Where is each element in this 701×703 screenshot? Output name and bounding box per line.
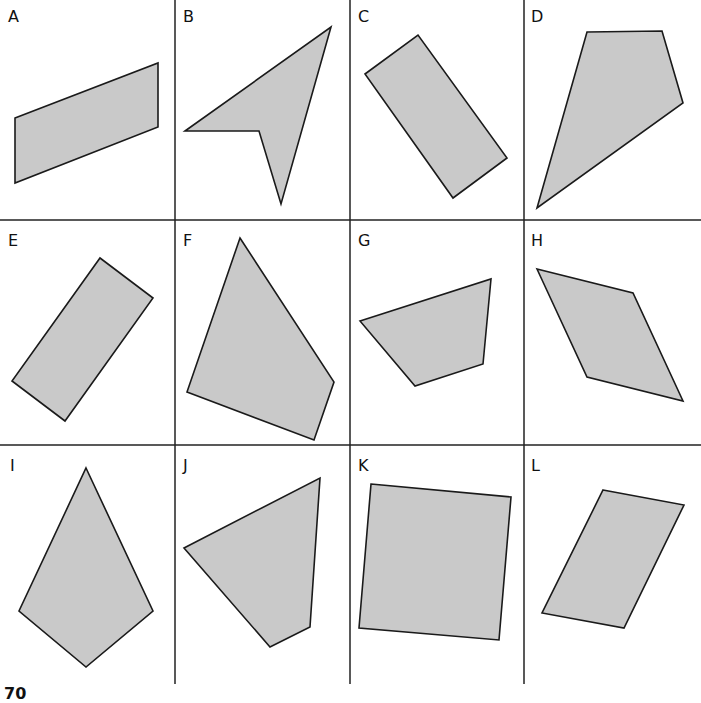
cell-label-f: F	[183, 231, 192, 250]
cell-label-k: K	[358, 456, 369, 475]
shape-i	[19, 468, 153, 667]
cell-b: B	[183, 7, 331, 204]
cell-f: F	[183, 231, 334, 440]
shape-a	[15, 63, 158, 183]
shape-e	[12, 258, 153, 421]
cell-label-j: J	[182, 456, 188, 475]
shape-cells: ABCDEFGHIJKL	[8, 7, 684, 667]
cell-l: L	[531, 456, 684, 628]
shape-d	[537, 31, 683, 208]
shape-h	[537, 269, 683, 401]
cell-label-g: G	[358, 231, 370, 250]
cell-label-i: I	[10, 456, 15, 475]
cell-g: G	[358, 231, 491, 386]
cell-label-d: D	[531, 7, 543, 26]
cell-label-b: B	[183, 7, 194, 26]
shape-l	[542, 490, 684, 628]
cell-k: K	[358, 456, 511, 640]
shape-b	[185, 27, 331, 204]
cell-e: E	[8, 231, 153, 421]
shape-k	[359, 484, 511, 640]
cell-j: J	[182, 456, 320, 647]
shape-f	[187, 238, 334, 440]
cell-label-l: L	[531, 456, 540, 475]
cell-h: H	[531, 231, 683, 401]
cell-c: C	[358, 7, 507, 198]
page-number: 70	[4, 686, 26, 702]
cell-label-a: A	[8, 7, 19, 26]
shape-j	[184, 478, 320, 647]
shape-c	[365, 35, 507, 198]
cell-d: D	[531, 7, 683, 208]
cell-label-c: C	[358, 7, 369, 26]
cell-label-h: H	[531, 231, 543, 250]
cell-label-e: E	[8, 231, 18, 250]
cell-i: I	[10, 456, 153, 667]
cell-a: A	[8, 7, 158, 183]
shape-g	[360, 279, 491, 386]
